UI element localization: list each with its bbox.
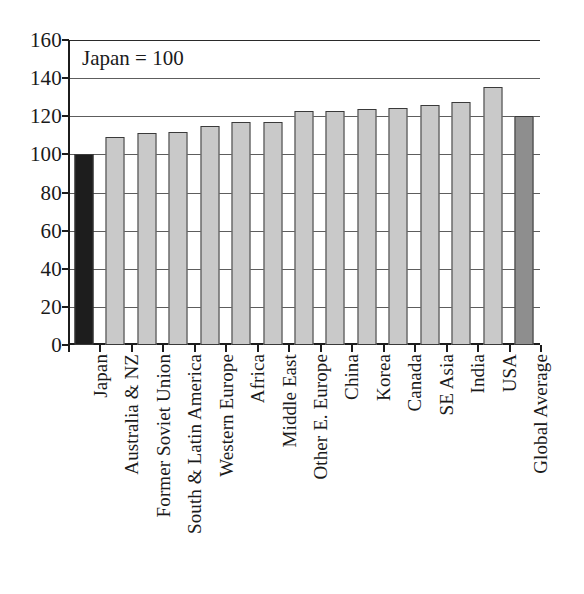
bar[interactable] <box>515 116 534 345</box>
y-axis-tick-label: 120 <box>30 106 62 127</box>
y-axis-labels: 020406080100120140160 <box>0 40 62 345</box>
bar[interactable] <box>389 108 408 345</box>
y-axis-tick-label: 140 <box>30 68 62 89</box>
x-axis-tick-mark <box>162 345 164 352</box>
x-axis-category-label: South & Latin America <box>185 354 204 534</box>
x-axis-category-label: Africa <box>248 354 267 403</box>
x-axis-category-label: Middle East <box>280 354 299 447</box>
bar[interactable] <box>357 109 376 345</box>
bar-slot <box>225 40 256 345</box>
bar-slot <box>288 40 319 345</box>
y-axis-tick-label: 160 <box>30 30 62 51</box>
bar[interactable] <box>263 122 282 345</box>
bar[interactable] <box>200 126 219 345</box>
x-axis-tick-mark <box>446 345 448 352</box>
x-axis-category-label: SE Asia <box>437 354 456 415</box>
bar[interactable] <box>452 102 471 345</box>
x-axis-category-label: Canada <box>405 354 424 412</box>
y-axis-tick-label: 60 <box>41 220 62 241</box>
x-axis-tick-mark <box>99 345 101 352</box>
x-axis-category-label: Japan <box>91 354 110 398</box>
x-axis-tick-mark <box>320 345 322 352</box>
x-axis-tick-mark <box>131 345 133 352</box>
x-axis-tick-mark <box>225 345 227 352</box>
bar[interactable] <box>74 154 93 345</box>
y-axis-tick-label: 40 <box>41 258 62 279</box>
bar-slot <box>68 40 99 345</box>
y-axis-tick-label: 20 <box>41 296 62 317</box>
bar[interactable] <box>137 133 156 345</box>
x-axis-category-label: Western Europe <box>217 354 236 477</box>
x-axis-category-label: USA <box>500 354 519 392</box>
bar[interactable] <box>106 137 125 345</box>
x-axis-category-label: Former Soviet Union <box>154 354 173 517</box>
bar[interactable] <box>169 132 188 346</box>
chart-annotation: Japan = 100 <box>82 48 184 69</box>
x-axis-tick-mark <box>68 345 70 352</box>
x-axis-category-label: India <box>468 354 487 394</box>
y-axis-tick-label: 0 <box>51 335 62 356</box>
y-axis-tick-label: 100 <box>30 144 62 165</box>
x-axis-labels: JapanAustralia & NZFormer Soviet UnionSo… <box>68 354 540 590</box>
x-axis-category-label: Global Average <box>531 354 550 474</box>
bar-slot <box>477 40 508 345</box>
bar[interactable] <box>483 87 502 345</box>
bar[interactable] <box>232 122 251 345</box>
bar[interactable] <box>326 111 345 345</box>
bar[interactable] <box>420 105 439 345</box>
x-axis-tick-mark <box>477 345 479 352</box>
bar-slot <box>162 40 193 345</box>
x-axis-tick-mark <box>288 345 290 352</box>
bar-slot <box>194 40 225 345</box>
y-axis-tick-label: 80 <box>41 182 62 203</box>
x-axis-category-label: Other E. Europe <box>311 354 330 479</box>
bar-slot <box>320 40 351 345</box>
bar-slot <box>99 40 130 345</box>
x-axis-tick-mark <box>540 345 542 352</box>
bar-slot <box>446 40 477 345</box>
bar-slot <box>509 40 540 345</box>
bar-slot <box>257 40 288 345</box>
x-axis-tick-mark <box>509 345 511 352</box>
x-axis-tick-mark <box>383 345 385 352</box>
x-axis-tick-mark <box>414 345 416 352</box>
x-axis-tick-mark <box>351 345 353 352</box>
x-axis-category-label: Australia & NZ <box>122 354 141 475</box>
x-axis-tick-mark <box>257 345 259 352</box>
x-axis-category-label: Korea <box>374 354 393 401</box>
x-axis-tick-mark <box>194 345 196 352</box>
bar-slot <box>131 40 162 345</box>
bar-chart: 020406080100120140160 Japan = 100 JapanA… <box>0 0 584 594</box>
bars-layer <box>68 40 540 345</box>
bar[interactable] <box>294 111 313 345</box>
bar-slot <box>383 40 414 345</box>
x-axis-category-label: China <box>342 354 361 400</box>
bar-slot <box>414 40 445 345</box>
bar-slot <box>351 40 382 345</box>
